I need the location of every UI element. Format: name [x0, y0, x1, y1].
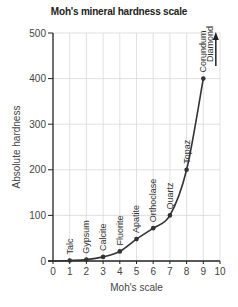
x-tick-label: 6 [150, 266, 156, 277]
y-axis-label: Absolute hardness [11, 106, 22, 189]
x-tick-label: 3 [100, 266, 106, 277]
x-tick-label: 2 [84, 266, 90, 277]
y-tick-label: 400 [29, 73, 46, 84]
data-point [201, 76, 206, 81]
data-point [134, 237, 139, 242]
x-tick-label: 0 [50, 266, 56, 277]
y-tick-label: 0 [40, 256, 46, 267]
point-label: Topaz [182, 139, 192, 164]
x-tick-label: 10 [214, 266, 226, 277]
point-label: Calcite [98, 223, 108, 251]
x-tick-label: 8 [184, 266, 190, 277]
point-label: Quartz [165, 182, 175, 210]
hardness-chart: 0100200300400500012345678910Moh's scaleA… [0, 0, 238, 307]
data-point [84, 257, 89, 262]
data-point [184, 168, 189, 173]
data-point [118, 249, 123, 254]
y-tick-label: 100 [29, 210, 46, 221]
x-tick-label: 7 [167, 266, 173, 277]
point-label: Talc [65, 238, 75, 255]
data-point [151, 226, 156, 231]
x-tick-label: 1 [67, 266, 73, 277]
x-tick-label: 4 [117, 266, 123, 277]
point-label: Orthoclase [148, 179, 158, 223]
y-tick-label: 500 [29, 28, 46, 39]
x-tick-label: 9 [201, 266, 207, 277]
data-point [67, 258, 72, 263]
data-point [168, 213, 173, 218]
point-label: Apatite [132, 205, 142, 233]
x-axis-label: Moh's scale [110, 282, 163, 293]
point-label: Fluorite [115, 215, 125, 245]
point-label: Gypsum [81, 220, 91, 254]
y-tick-label: 200 [29, 164, 46, 175]
y-tick-label: 300 [29, 119, 46, 130]
x-tick-label: 5 [134, 266, 140, 277]
diamond-label: Diamond [205, 26, 215, 62]
data-point [101, 255, 106, 260]
